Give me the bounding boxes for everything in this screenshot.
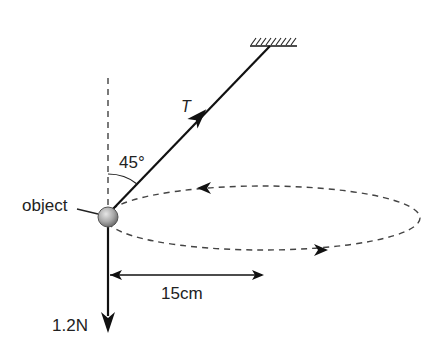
radius-dimension bbox=[110, 270, 264, 280]
angle-label: 45° bbox=[119, 153, 145, 172]
object-label: object bbox=[22, 196, 68, 215]
string-line bbox=[112, 46, 270, 210]
object-pointer-line bbox=[77, 209, 98, 214]
angle-arc bbox=[108, 174, 137, 184]
tension-label: T bbox=[181, 98, 192, 115]
orbit-arrow-bottom-icon bbox=[314, 244, 328, 256]
conical-pendulum-diagram: T 45° object 15cm 1.2N bbox=[0, 0, 445, 361]
radius-label: 15cm bbox=[161, 284, 203, 303]
circular-path bbox=[106, 186, 420, 250]
tension-arrow-icon bbox=[187, 105, 211, 129]
ceiling-support-icon bbox=[250, 38, 297, 46]
object-ball bbox=[98, 207, 118, 227]
weight-label: 1.2N bbox=[52, 316, 88, 335]
